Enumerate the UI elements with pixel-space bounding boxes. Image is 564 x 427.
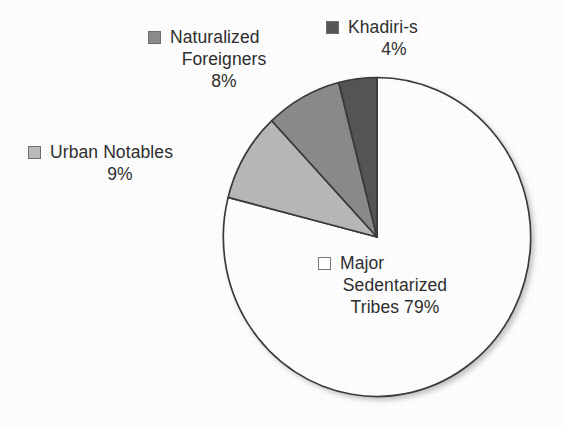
legend-swatch-major-sedentarized-tribes	[318, 257, 331, 270]
naturalized-label-text: Naturalized	[170, 27, 260, 47]
legend-swatch-naturalized-foreigners	[148, 31, 161, 44]
pie-label-major-sedentarized-tribes: Major Sedentarized Tribes 79%	[300, 252, 490, 318]
naturalized-value: 8%	[148, 70, 300, 92]
pie-label-naturalized-foreigners: Naturalized Foreigners 8%	[148, 26, 300, 92]
khadiris-value: 4%	[326, 38, 462, 60]
urban-label-text: Urban Notables	[50, 142, 173, 162]
pie-label-urban-notables: Urban Notables 9%	[28, 141, 212, 185]
naturalized-line-1: Naturalized	[148, 26, 300, 48]
pie-chart: Naturalized Foreigners 8% Khadiri-s 4% U…	[0, 0, 564, 427]
khadiris-label-text: Khadiri-s	[348, 17, 418, 37]
khadiris-line-1: Khadiri-s	[326, 16, 462, 38]
major-line-2: Sedentarized	[300, 274, 490, 296]
pie-label-khadiris: Khadiri-s 4%	[326, 16, 462, 60]
urban-value: 9%	[28, 163, 212, 185]
major-label-text: Major	[340, 253, 384, 273]
legend-swatch-khadiris	[326, 21, 339, 34]
urban-line-1: Urban Notables	[28, 141, 212, 163]
major-line-1: Major	[300, 252, 490, 274]
legend-swatch-urban-notables	[28, 146, 41, 159]
naturalized-line-2: Foreigners	[148, 48, 300, 70]
major-value: Tribes 79%	[300, 296, 490, 318]
pie-slices-group	[223, 78, 530, 397]
